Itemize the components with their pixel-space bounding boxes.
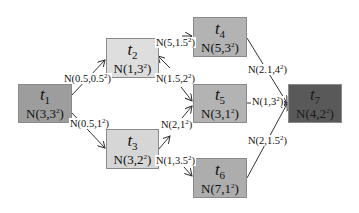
node-t4: t4 N(5,32) [193,17,247,57]
edge-label-t6-t7: N(2,1.52) [247,135,288,146]
node-name: t2 [127,41,137,62]
edge-t2-t4 [158,56,170,68]
node-t3: t3 N(3,22) [106,129,159,169]
node-distribution: N(1,32) [114,62,152,76]
edge-label-t4-t7: N(2.1,42) [247,64,288,75]
edge-t2-t5 [181,87,192,101]
node-distribution: N(3,32) [26,107,64,121]
node-name: t1 [40,86,50,107]
node-distribution: N(5,32) [201,41,239,55]
edge-t3-t6b [184,167,192,176]
node-t5: t5 N(3,12) [193,84,247,123]
edge-label-t1-t3: N(0.5,12) [69,118,110,129]
node-t2: t2 N(1,32) [106,38,159,78]
edge-label-t2-t5: N(1.5,22) [155,73,196,84]
node-name: t3 [127,132,137,153]
node-t6: t6 N(7,12) [193,158,247,198]
edge-label-t3-t6: N(1,3.52) [155,155,196,166]
edge-t3-t5 [182,106,192,118]
edge-label-t1-t2: N(0.5,0.52) [63,73,112,84]
node-distribution: N(4,22) [296,107,334,121]
node-distribution: N(3,12) [201,107,239,121]
node-name: t4 [215,20,225,41]
edge-label-t5-t7: N(1,32) [251,96,284,107]
edge-label-t2-t4: N(5,1.52) [155,37,196,48]
node-name: t7 [310,86,320,107]
node-distribution: N(7,12) [201,182,239,196]
node-t7: t7 N(4,22) [288,84,342,123]
node-distribution: N(3,22) [114,153,152,167]
node-name: t6 [215,161,225,182]
edge-t3-t6 [158,136,170,150]
edge-label-t3-t5: N(2,12) [160,119,193,130]
node-name: t5 [215,86,225,107]
node-t1: t1 N(3,32) [18,84,72,123]
